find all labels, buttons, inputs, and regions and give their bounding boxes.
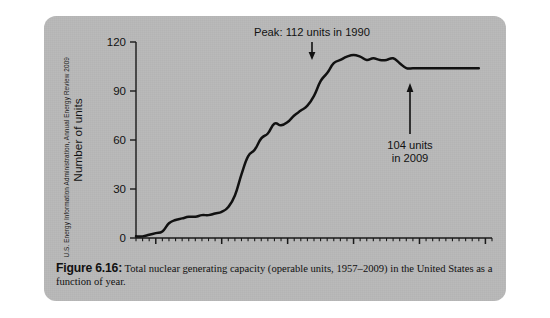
figure-caption-body: Total nuclear generating capacity (opera…: [56, 263, 492, 287]
annotation-final-label-line2: in 2009: [392, 152, 429, 164]
chart-plot-area: 120 90 60 30 0 Number of units 196019701…: [44, 16, 506, 248]
figure-caption-label: Figure 6.16:: [56, 261, 122, 275]
figure-panel: U.S. Energy Information Administration, …: [44, 16, 506, 301]
x-axis-tick-labels: 196019701980199020002010: [143, 247, 498, 248]
y-axis-title: Number of units: [71, 98, 85, 181]
x-tick-label: 2010: [473, 247, 499, 248]
annotation-final-label-line1: 104 units: [387, 139, 433, 151]
line-chart-svg: 120 90 60 30 0 Number of units 196019701…: [44, 16, 506, 248]
y-tick-label: 30: [113, 183, 126, 195]
x-tick-label: 2000: [407, 247, 433, 248]
y-tick-label: 90: [113, 85, 126, 97]
annotation-final-arrow-head: [407, 83, 414, 92]
y-tick-label: 120: [107, 36, 126, 48]
figure-caption: Figure 6.16: Total nuclear generating ca…: [56, 262, 494, 289]
y-axis-ticks: [130, 42, 136, 238]
annotation-final: 104 units in 2009: [387, 83, 433, 164]
x-tick-label: 1990: [341, 247, 367, 248]
y-axis-tick-labels: 120 90 60 30 0: [107, 36, 126, 245]
annotation-peak-label: Peak: 112 units in 1990: [254, 26, 370, 38]
annotation-peak-arrow-head: [309, 52, 316, 60]
x-tick-label: 1970: [209, 247, 235, 248]
y-tick-label: 60: [113, 134, 126, 146]
x-tick-label: 1960: [143, 247, 169, 248]
y-tick-label: 0: [120, 232, 126, 244]
x-tick-label: 1980: [275, 247, 301, 248]
x-axis-ticks: [136, 238, 492, 244]
